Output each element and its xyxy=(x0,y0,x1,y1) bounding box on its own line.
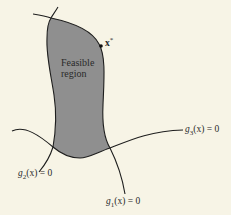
optimum-point-label: x* xyxy=(105,36,113,48)
g1-rhs: = 0 xyxy=(128,196,140,206)
optimum-superscript: * xyxy=(110,36,114,44)
region-label-line2: region xyxy=(61,68,94,79)
g2-arg: (x) xyxy=(26,168,37,178)
g2-rhs: = 0 xyxy=(40,168,52,178)
g1-arg: (x) xyxy=(114,196,125,206)
optimum-point-dot xyxy=(99,44,103,48)
diagram-canvas xyxy=(0,0,231,215)
g3-arg: (x) xyxy=(193,124,204,134)
region-label-line1: Feasible xyxy=(61,57,94,68)
feasible-region-shape xyxy=(47,18,110,158)
g1-label: g1(x) = 0 xyxy=(106,196,140,209)
g3-rhs: = 0 xyxy=(207,124,219,134)
g3-label: g3(x) = 0 xyxy=(185,124,219,137)
feasible-region-label: Feasible region xyxy=(61,57,94,79)
g2-label: g2(x) = 0 xyxy=(18,168,52,181)
